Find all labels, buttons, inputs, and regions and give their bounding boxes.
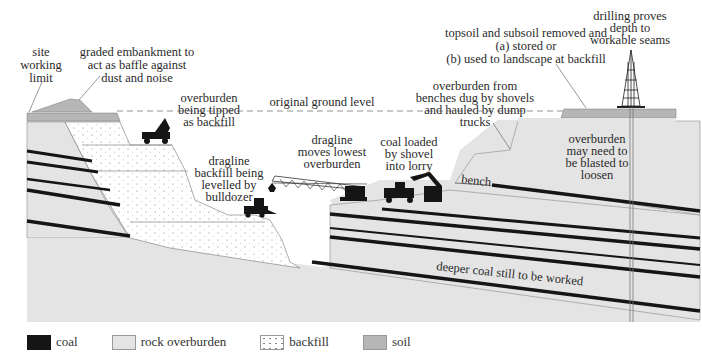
svg-text:overburdenbeing tippedas backf: overburdenbeing tippedas backfill [178,91,241,129]
legend-item-soil: soil [363,334,411,350]
label-site-working-limit: site [32,45,50,59]
soil-left [27,113,120,121]
opencast-mine-diagram: siteworkinglimit graded embankment toact… [0,0,702,363]
legend-label: coal [56,334,78,350]
legend-item-backfill: backfill [260,334,329,350]
legend-label: rock overburden [141,334,227,350]
coal-swatch-icon [27,335,51,350]
label-original-ground-level: original ground level [270,95,375,109]
legend-label: backfill [289,334,329,350]
legend-item-rock: rock overburden [112,334,227,350]
svg-text:topsoil and subsoil removed an: topsoil and subsoil removed and(a) store… [445,26,608,66]
label-graded-embankment: graded embankment to [80,45,195,59]
right-top-rock [518,118,676,122]
legend-item-coal: coal [27,334,78,350]
rock-swatch-icon [112,335,136,350]
soil-swatch-icon [363,335,387,350]
svg-text:coal loadedby shovelinto lorry: coal loadedby shovelinto lorry [380,135,438,173]
soil-right [561,109,676,118]
legend: coal rock overburden backfill soil [27,332,445,352]
backfill-swatch-icon [260,335,284,350]
legend-label: soil [392,334,411,350]
label-topsoil-subsoil: topsoil and subsoil removed and [445,26,608,40]
